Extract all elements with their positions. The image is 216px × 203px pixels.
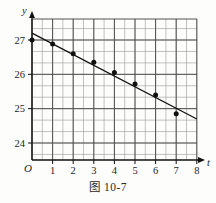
x-axis-arrow	[198, 157, 205, 163]
scatter-plot: 12345678 24252627 O t y	[0, 0, 216, 203]
axes	[29, 11, 205, 163]
y-tick-label: 24	[15, 138, 26, 149]
x-tick-label: 1	[50, 165, 55, 176]
x-tick-label: 7	[174, 165, 179, 176]
x-tick-label: 4	[112, 165, 118, 176]
data-point	[112, 70, 117, 75]
origin-label: O	[24, 162, 32, 174]
y-tick-labels: 24252627	[15, 35, 26, 149]
x-tick-label: 3	[91, 165, 96, 176]
x-tick-label: 8	[194, 165, 199, 176]
data-point	[91, 60, 96, 65]
x-tick-label: 5	[132, 165, 137, 176]
y-axis-label: y	[21, 5, 27, 16]
x-tick-labels: 12345678	[50, 165, 199, 176]
figure-caption: 图 10-7	[0, 178, 216, 194]
y-axis-arrow	[29, 11, 35, 18]
data-point	[71, 51, 76, 56]
major-gridlines	[32, 19, 197, 160]
data-point	[153, 92, 158, 97]
data-point	[50, 42, 55, 47]
x-tick-label: 2	[71, 165, 76, 176]
y-tick-label: 27	[15, 35, 26, 46]
data-point	[133, 81, 138, 86]
data-point	[174, 111, 179, 116]
y-tick-label: 26	[15, 69, 26, 80]
y-tick-label: 25	[15, 103, 26, 114]
x-tick-label: 6	[153, 165, 158, 176]
data-point	[30, 38, 35, 43]
x-axis-label: t	[207, 157, 211, 168]
figure-container: 12345678 24252627 O t y 图 10-7	[0, 0, 216, 203]
